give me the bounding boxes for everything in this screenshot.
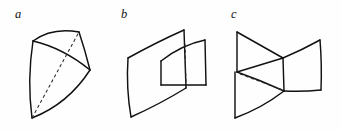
panel-c-bowtie-upper-lower-edge [237,58,283,72]
panel-label-c: c [231,7,237,21]
panel-c-sheet-left [283,58,284,91]
figure-panel: a b [0,0,341,132]
panel-a-edge-bottom [32,70,90,118]
panel-label-b: b [121,7,127,21]
panel-b-sheet1-left [127,58,131,117]
panel-b-sheet1-top [128,30,184,58]
panel-c-sheet-right [320,40,321,90]
panel-b-sheet1-bottom [131,88,186,117]
panel-c-bowtie-top-edge [237,32,283,58]
panel-a-edge-right-upper [79,32,90,70]
panel-a-edge-left [30,41,33,118]
panel-c-group: c [231,7,321,118]
panel-c-sheet-bottom [284,90,321,91]
panel-c-bowtie-bottom-curve [235,91,284,118]
panel-a-fold-curve [33,41,90,70]
panel-b-sheet2-right [205,40,206,85]
geometry-figure-svg: a b [0,0,341,132]
panel-label-a: a [15,7,21,21]
panel-c-sheet-top [283,40,320,58]
panel-b-sheet2-top [161,40,205,61]
panel-a-edge-top [33,31,79,41]
panel-b-group: b [121,7,206,117]
panel-c-bowtie-fold-curve [237,72,284,91]
panel-a-group: a [15,7,90,118]
